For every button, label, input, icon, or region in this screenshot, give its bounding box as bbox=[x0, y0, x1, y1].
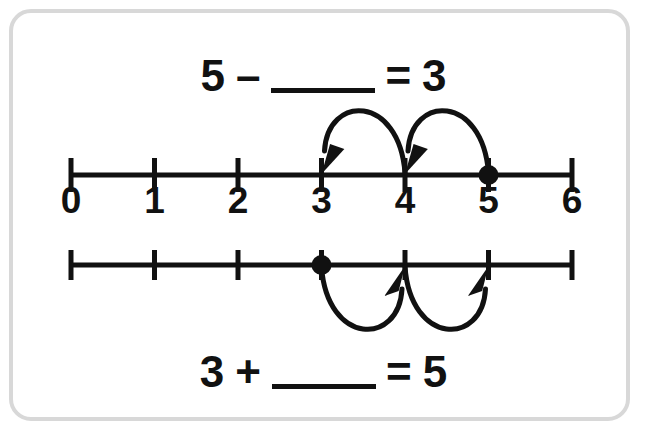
tick-label-2: 2 bbox=[228, 180, 249, 221]
jump-arc-5-to-4 bbox=[408, 111, 489, 173]
tick-label-0: 0 bbox=[61, 180, 82, 221]
addition-number-line bbox=[71, 250, 572, 329]
tick-label-group: 0123456 bbox=[61, 180, 583, 221]
subtraction-number-line: 0123456 bbox=[61, 111, 583, 221]
jump-arc-3-to-4 bbox=[322, 267, 403, 329]
start-point-marker[interactable] bbox=[479, 165, 499, 185]
number-line-diagram: 0123456 bbox=[0, 0, 648, 432]
jump-arc-group bbox=[322, 266, 489, 329]
tick-label-4: 4 bbox=[395, 180, 416, 221]
jump-arc-4-to-3 bbox=[325, 111, 406, 173]
worksheet-canvas: 5–=3 3+=5 0123456 bbox=[0, 0, 648, 432]
tick-label-1: 1 bbox=[144, 180, 165, 221]
start-point-marker[interactable] bbox=[312, 255, 332, 275]
tick-label-5: 5 bbox=[478, 180, 499, 221]
jump-arc-group bbox=[322, 111, 489, 174]
jump-arc-4-to-5 bbox=[405, 267, 486, 329]
tick-label-3: 3 bbox=[311, 180, 332, 221]
tick-label-6: 6 bbox=[562, 180, 583, 221]
